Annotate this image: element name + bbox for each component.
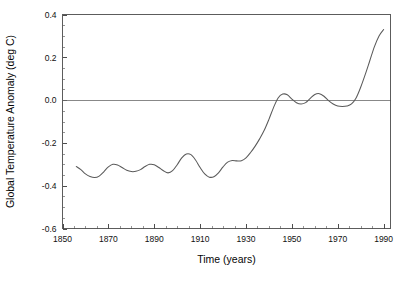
- x-axis-title: Time (years): [197, 253, 256, 265]
- x-tick-label: 1890: [145, 234, 164, 244]
- y-tick-label: -0.2: [42, 138, 57, 148]
- y-tick-label: 0.4: [45, 10, 57, 20]
- x-tick-label: 1990: [374, 234, 393, 244]
- y-tick-label: -0.6: [42, 224, 57, 234]
- y-tick-label: -0.4: [42, 181, 57, 191]
- x-tick-label: 1930: [237, 234, 256, 244]
- x-tick-label: 1970: [328, 234, 347, 244]
- chart-figure: 18501870189019101930195019701990 0.40.20…: [0, 0, 408, 283]
- y-tick-label: 0.2: [45, 53, 57, 63]
- x-tick-label: 1910: [191, 234, 210, 244]
- y-axis-title: Global Temperature Anomaly (deg C): [4, 35, 16, 208]
- y-tick-label: 0.0: [45, 95, 57, 105]
- x-tick-label: 1850: [53, 234, 72, 244]
- temperature-anomaly-line-chart: 18501870189019101930195019701990 0.40.20…: [0, 0, 408, 283]
- x-tick-label: 1870: [99, 234, 118, 244]
- x-tick-label: 1950: [282, 234, 301, 244]
